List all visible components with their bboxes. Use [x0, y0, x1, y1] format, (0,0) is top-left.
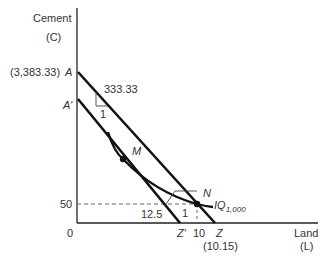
x-axis-label-unit: (L) — [300, 240, 313, 252]
isoquant-curve — [108, 132, 213, 207]
point-A-label: A — [64, 66, 72, 78]
y-axis-label: Cement — [33, 12, 72, 24]
isocost-line-AZ — [78, 72, 215, 223]
isocost-isoquant-diagram: Cement (C) (3,383.33) A A′ 333.33 1 M N … — [0, 0, 329, 265]
point-A-prime-label: A′ — [62, 99, 73, 111]
isoquant-label: IQ1,000 — [214, 199, 246, 214]
x-axis-label: Land — [294, 227, 318, 239]
slope-upper-rise: 333.33 — [104, 83, 138, 95]
slope-lower-rise: 12.5 — [141, 208, 162, 220]
point-Z-label: Z — [215, 227, 224, 239]
y-axis-label-unit: (C) — [46, 31, 61, 43]
point-M-label: M — [132, 145, 142, 157]
point-M — [120, 156, 126, 162]
point-Z-value: (10.15) — [203, 240, 238, 252]
tick-50: 50 — [60, 198, 72, 210]
origin-label: 0 — [67, 227, 73, 239]
point-A-value: (3,383.33) — [10, 66, 60, 78]
tick-10: 10 — [193, 227, 205, 239]
slope-lower-run: 1 — [182, 207, 188, 219]
point-N — [194, 201, 200, 207]
slope-upper-run: 1 — [100, 108, 106, 120]
point-N-label: N — [203, 187, 211, 199]
point-Z-prime-label: Z′ — [176, 227, 187, 239]
